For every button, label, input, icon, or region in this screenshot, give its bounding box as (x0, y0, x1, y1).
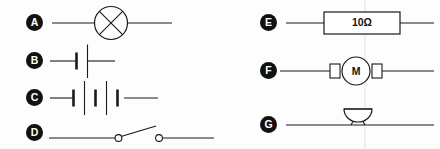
cell-icon (0, 42, 220, 79)
symbol-row-battery: C (0, 79, 220, 116)
symbol-row-motor: F M (220, 52, 440, 89)
resistor-value-label: 10Ω (324, 16, 400, 28)
circuit-symbols-sheet: A B (0, 0, 440, 149)
symbol-row-cell: B (0, 42, 220, 79)
open-switch-icon (0, 114, 220, 149)
left-column: A B (0, 0, 220, 149)
symbol-row-open-switch: D (0, 114, 220, 149)
motor-icon (220, 52, 440, 89)
bell-icon (220, 100, 440, 137)
symbol-row-resistor: E 10Ω (220, 4, 440, 41)
lamp-icon (0, 4, 220, 41)
right-column: E 10Ω F M (220, 0, 440, 149)
symbol-row-lamp: A (0, 4, 220, 41)
symbol-row-bell: G (220, 100, 440, 137)
motor-value-label: M (342, 65, 370, 77)
battery-icon (0, 79, 220, 116)
